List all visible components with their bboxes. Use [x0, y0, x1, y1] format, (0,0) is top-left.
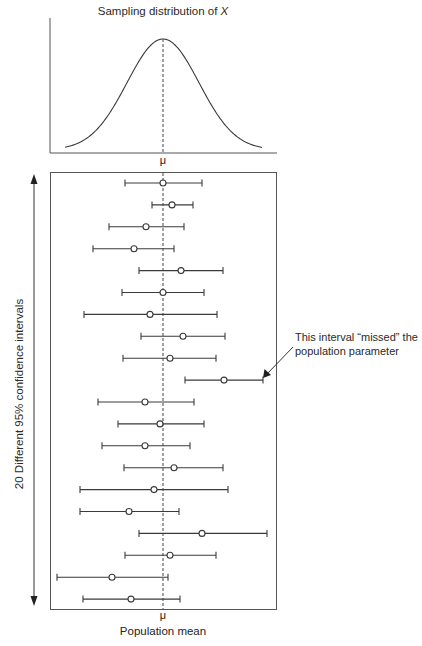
- confidence-interval-7: [84, 311, 217, 318]
- y-axis-double-arrow: [31, 174, 38, 606]
- confidence-interval-10: [185, 377, 263, 384]
- point-estimate-marker: [199, 530, 205, 536]
- point-estimate-marker: [180, 333, 186, 339]
- annotation-arrow: [263, 347, 293, 378]
- confidence-interval-15: [80, 486, 228, 493]
- annotation-line-2: population parameter: [295, 344, 418, 358]
- confidence-interval-18: [125, 552, 216, 559]
- point-estimate-marker: [151, 487, 157, 493]
- point-estimate-marker: [171, 465, 177, 471]
- annotation-line-1: This interval “missed” the: [295, 330, 418, 344]
- missed-interval-annotation: This interval “missed” the population pa…: [295, 330, 418, 358]
- point-estimate-marker: [142, 399, 148, 405]
- confidence-interval-19: [57, 574, 168, 581]
- confidence-interval-3: [109, 223, 184, 230]
- confidence-interval-8: [141, 333, 225, 340]
- confidence-intervals: [57, 180, 267, 603]
- figure-canvas: [0, 0, 422, 646]
- point-estimate-marker: [131, 246, 137, 252]
- point-estimate-marker: [157, 421, 163, 427]
- point-estimate-marker: [167, 552, 173, 558]
- confidence-interval-17: [139, 530, 267, 537]
- point-estimate-marker: [221, 377, 227, 383]
- confidence-interval-9: [123, 355, 216, 362]
- point-estimate-marker: [109, 574, 115, 580]
- confidence-interval-16: [80, 508, 179, 515]
- confidence-interval-11: [98, 399, 194, 406]
- arrow-up-icon: [31, 174, 38, 184]
- confidence-interval-2: [152, 201, 193, 208]
- bottom-mu-label: μ: [157, 609, 169, 621]
- point-estimate-marker: [160, 180, 166, 186]
- point-estimate-marker: [147, 311, 153, 317]
- point-estimate-marker: [178, 268, 184, 274]
- confidence-interval-6: [122, 289, 204, 296]
- point-estimate-marker: [167, 355, 173, 361]
- y-axis-label: 20 Different 95% confidence intervals: [13, 299, 25, 489]
- annotation-arrowhead-icon: [263, 369, 271, 378]
- point-estimate-marker: [160, 290, 166, 296]
- point-estimate-marker: [126, 509, 132, 515]
- arrow-down-icon: [31, 596, 38, 606]
- population-mean-label: Population mean: [100, 625, 226, 637]
- confidence-interval-4: [93, 245, 174, 252]
- point-estimate-marker: [143, 224, 149, 230]
- top-mu-label: μ: [157, 154, 169, 166]
- confidence-interval-20: [83, 596, 180, 603]
- confidence-interval-13: [102, 442, 190, 449]
- point-estimate-marker: [142, 443, 148, 449]
- confidence-interval-1: [125, 180, 202, 187]
- confidence-interval-14: [124, 464, 223, 471]
- confidence-interval-12: [118, 420, 204, 427]
- confidence-interval-5: [139, 267, 223, 274]
- point-estimate-marker: [169, 202, 175, 208]
- point-estimate-marker: [128, 596, 134, 602]
